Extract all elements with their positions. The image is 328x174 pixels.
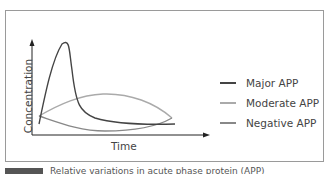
figure-caption: Relative variations in acute phase prote… bbox=[0, 166, 328, 174]
legend-swatch-icon bbox=[220, 82, 236, 84]
legend-label: Moderate APP bbox=[246, 97, 319, 109]
series-negative-app bbox=[39, 116, 172, 131]
series-moderate-app bbox=[39, 94, 172, 118]
legend: Major APP Moderate APP Negative APP bbox=[220, 73, 319, 133]
caption-bar bbox=[5, 168, 43, 174]
legend-item-major-app: Major APP bbox=[220, 73, 319, 93]
legend-label: Major APP bbox=[246, 77, 298, 89]
x-axis-arrow-icon bbox=[203, 133, 210, 138]
legend-swatch-icon bbox=[220, 122, 236, 124]
y-axis-arrow-icon bbox=[30, 39, 35, 46]
legend-item-negative-app: Negative APP bbox=[220, 113, 319, 133]
legend-label: Negative APP bbox=[246, 117, 316, 129]
series-major-app bbox=[39, 42, 175, 124]
legend-swatch-icon bbox=[220, 102, 236, 104]
y-axis-label: Concentration bbox=[22, 59, 34, 133]
caption-text: Relative variations in acute phase prote… bbox=[50, 166, 265, 174]
legend-item-moderate-app: Moderate APP bbox=[220, 93, 319, 113]
x-axis-label: Time bbox=[111, 140, 137, 152]
